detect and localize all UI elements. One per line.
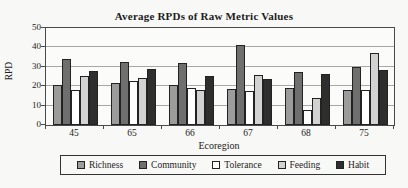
x-tick-label: 75	[344, 128, 384, 138]
chart-title: Average RPDs of Raw Metric Values	[0, 10, 408, 22]
legend-item-habit: Habit	[336, 160, 369, 170]
y-tick-mark	[41, 105, 45, 106]
bar-tolerance-66	[187, 88, 196, 125]
bar-tolerance-65	[129, 81, 138, 125]
x-tick-mark	[219, 125, 220, 129]
plot-area	[45, 27, 395, 126]
bar-richness-66	[169, 85, 178, 125]
legend-label: Feeding	[290, 160, 321, 170]
x-tick-mark	[103, 125, 104, 129]
legend-label: Tolerance	[224, 160, 261, 170]
x-tick-label: 67	[228, 128, 268, 138]
bar-richness-68	[285, 88, 294, 125]
bar-community-75	[352, 67, 361, 125]
legend-label: Richness	[89, 160, 123, 170]
bar-feeding-45	[80, 76, 89, 125]
x-tick-label: 45	[54, 128, 94, 138]
x-tick-mark	[45, 125, 46, 129]
y-tick-mark	[41, 27, 45, 28]
y-tick-mark	[41, 85, 45, 86]
bar-richness-45	[53, 85, 62, 125]
bar-community-65	[120, 62, 129, 125]
x-tick-mark	[161, 125, 162, 129]
bar-habit-67	[263, 79, 272, 125]
bar-tolerance-75	[361, 90, 370, 125]
bar-feeding-66	[196, 90, 205, 125]
y-tick-label: 0	[19, 119, 41, 129]
figure: Average RPDs of Raw Metric Values RPD 01…	[0, 0, 408, 188]
legend-item-richness: Richness	[77, 160, 123, 170]
legend-item-tolerance: Tolerance	[212, 160, 261, 170]
bar-feeding-65	[138, 78, 147, 125]
bar-richness-65	[111, 83, 120, 125]
bar-community-66	[178, 63, 187, 125]
gridline	[46, 85, 394, 86]
bar-habit-65	[147, 69, 156, 125]
legend-label: Community	[151, 160, 196, 170]
bar-habit-45	[89, 71, 98, 125]
y-axis-title: RPD	[4, 61, 14, 81]
legend-swatch-icon	[336, 161, 344, 169]
legend-item-community: Community	[139, 160, 196, 170]
x-axis-title: Ecoregion	[45, 140, 393, 151]
y-tick-label: 20	[19, 80, 41, 90]
legend: RichnessCommunityToleranceFeedingHabit	[60, 155, 386, 175]
x-tick-mark	[277, 125, 278, 129]
x-tick-label: 66	[170, 128, 210, 138]
y-tick-label: 50	[19, 22, 41, 32]
bar-tolerance-67	[245, 91, 254, 125]
bar-tolerance-68	[303, 110, 312, 125]
bar-richness-67	[227, 89, 236, 125]
y-tick-label: 10	[19, 100, 41, 110]
legend-swatch-icon	[77, 161, 85, 169]
bar-habit-68	[321, 74, 330, 125]
gridline	[46, 46, 394, 47]
y-tick-label: 40	[19, 41, 41, 51]
y-tick-mark	[41, 46, 45, 47]
legend-item-feeding: Feeding	[278, 160, 321, 170]
y-tick-label: 30	[19, 61, 41, 71]
bar-community-67	[236, 45, 245, 125]
bar-richness-75	[343, 90, 352, 125]
bar-feeding-67	[254, 75, 263, 125]
legend-swatch-icon	[278, 161, 286, 169]
x-tick-mark	[393, 125, 394, 129]
bar-feeding-75	[370, 53, 379, 125]
bar-feeding-68	[312, 98, 321, 125]
bar-tolerance-45	[71, 90, 80, 125]
bar-habit-75	[379, 70, 388, 125]
legend-swatch-icon	[212, 161, 220, 169]
bar-habit-66	[205, 76, 214, 125]
legend-swatch-icon	[139, 161, 147, 169]
x-tick-mark	[335, 125, 336, 129]
legend-label: Habit	[348, 160, 369, 170]
y-tick-mark	[41, 66, 45, 67]
x-tick-label: 68	[286, 128, 326, 138]
x-tick-label: 65	[112, 128, 152, 138]
bar-community-45	[62, 59, 71, 125]
bar-community-68	[294, 72, 303, 125]
gridline	[46, 66, 394, 67]
